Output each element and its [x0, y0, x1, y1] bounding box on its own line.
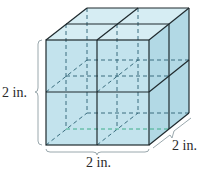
depth-label: 2 in. — [172, 138, 197, 153]
height-brace — [35, 40, 42, 145]
height-label: 2 in. — [2, 85, 27, 100]
cube-diagram: 2 in. 2 in. 2 in. — [0, 0, 199, 170]
width-label: 2 in. — [86, 155, 111, 170]
